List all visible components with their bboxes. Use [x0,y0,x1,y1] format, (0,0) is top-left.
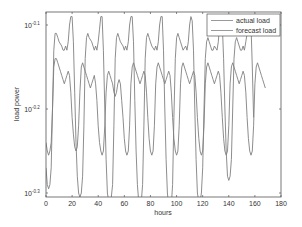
y-axis-label: load power [13,86,21,121]
y-tick-exponent: -0.2 [32,105,40,110]
x-tick-label: 80 [147,200,155,207]
y-tick-label: 10 [24,190,32,197]
y-tick-label: 10 [24,106,32,113]
x-tick-label: 40 [94,200,102,207]
x-tick-label: 120 [197,200,209,207]
x-tick-label: 60 [120,200,128,207]
x-tick-label: 0 [44,200,48,207]
x-tick-label: 20 [68,200,76,207]
x-tick-label: 160 [249,200,261,207]
y-tick-label: 10 [24,22,32,29]
y-tick-exponent: -0.1 [32,21,40,26]
x-tick-label: 100 [171,200,183,207]
x-tick-label: 140 [223,200,235,207]
legend-label-actual-load: actual load [236,17,270,24]
legend-label-forecast-load: forecast load [236,27,276,34]
legend: actual load forecast load [207,14,280,36]
y-tick-exponent: -0.3 [32,189,40,194]
load-forecast-chart: 020406080100120140160180 10-0.110-0.210-… [0,0,302,227]
x-axis-label: hours [154,209,172,216]
x-tick-label: 180 [275,200,287,207]
